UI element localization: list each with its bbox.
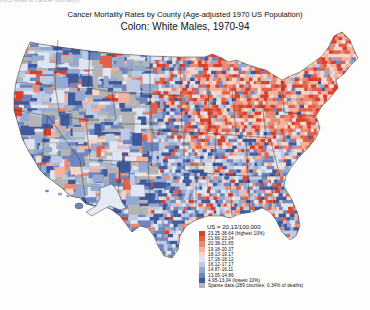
us-county-choropleth-map — [0, 30, 370, 310]
cropped-header-text: (NCI Atlas of cancer mortality) — [0, 0, 80, 3]
legend-item: Sparse data (289 counties; 0.34% of deat… — [199, 283, 303, 288]
map-legend: US = 20.13/100,000 23.25-38.64 (highest … — [199, 224, 303, 288]
legend-swatch — [199, 283, 205, 288]
legend-label: Sparse data (289 counties; 0.34% of deat… — [208, 283, 303, 288]
county-cells — [10, 30, 365, 264]
us-average-rate: US = 20.13/100,000 — [207, 224, 303, 230]
map-title: Cancer Mortality Rates by County (Age-ad… — [0, 10, 370, 19]
